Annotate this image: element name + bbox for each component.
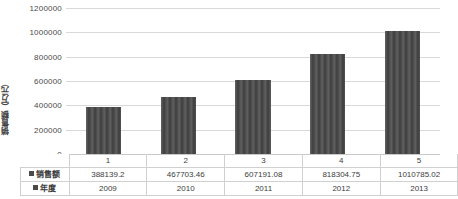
bar[interactable] <box>161 97 196 154</box>
y-axis-tick-labels: 020000040000060000080000010000001200000 <box>14 8 66 154</box>
bar-slot <box>290 8 365 154</box>
table-row: 年度20092010201120122013 <box>21 182 458 196</box>
table-cell: 2009 <box>69 182 147 196</box>
table-cell: 2010 <box>147 182 225 196</box>
y-axis-tick-label: 800000 <box>34 52 62 61</box>
category-axis-label: 5 <box>380 154 458 168</box>
table-cell: 2011 <box>225 182 303 196</box>
bar-slot <box>365 8 440 154</box>
bar-slot <box>141 8 216 154</box>
legend-label: 年度 <box>40 184 56 193</box>
legend-entry[interactable]: 销售额 <box>21 168 70 182</box>
data-table: 12345销售额388139.2467703.46607191.08818304… <box>20 154 458 196</box>
legend-swatch-icon <box>29 171 34 176</box>
table-cell: 1010785.02 <box>380 168 458 182</box>
category-axis-label: 3 <box>225 154 303 168</box>
table-cell: 2013 <box>380 182 458 196</box>
table-cell: 818304.75 <box>302 168 380 182</box>
y-axis-tick-label: 400000 <box>34 101 62 110</box>
plot-area <box>66 8 440 154</box>
table-row-categories: 12345 <box>21 154 458 168</box>
y-axis-tick-label: 1200000 <box>29 4 62 13</box>
bar-slot <box>216 8 291 154</box>
legend-swatch-icon <box>33 185 38 190</box>
y-axis-tick-label: 600000 <box>34 77 62 86</box>
bar-slot <box>66 8 141 154</box>
category-axis-label: 2 <box>147 154 225 168</box>
y-axis-tick-label: 200000 <box>34 125 62 134</box>
table-cell: 2012 <box>302 182 380 196</box>
category-axis-label: 4 <box>302 154 380 168</box>
table-cell: 388139.2 <box>69 168 147 182</box>
legend-entry[interactable]: 年度 <box>21 182 70 196</box>
bar[interactable] <box>235 80 270 154</box>
table-row: 销售额388139.2467703.46607191.08818304.7510… <box>21 168 458 182</box>
table-corner-cell <box>21 154 70 168</box>
bar[interactable] <box>86 107 121 154</box>
category-axis-label: 1 <box>69 154 147 168</box>
y-axis-tick-label: 1000000 <box>29 28 62 37</box>
table-cell: 607191.08 <box>225 168 303 182</box>
y-axis-title: 销售额（万元） <box>0 52 14 162</box>
bar[interactable] <box>385 31 420 154</box>
bar[interactable] <box>310 54 345 154</box>
table-cell: 467703.46 <box>147 168 225 182</box>
legend-label: 销售额 <box>36 170 60 179</box>
bar-series <box>66 8 440 154</box>
